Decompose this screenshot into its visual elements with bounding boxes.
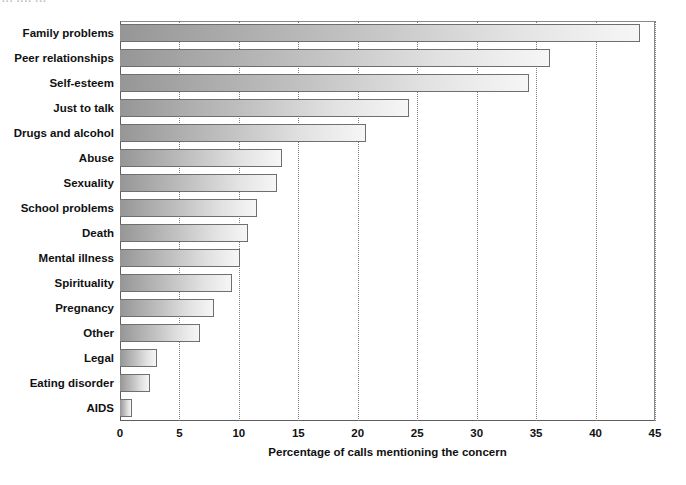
bar-just-to-talk [120,99,409,117]
bar-peer-relationships [120,49,550,67]
bar-chart-figure: Family problemsPeer relationshipsSelf-es… [0,0,686,485]
x-tick-label-40: 40 [589,427,602,439]
category-label-legal: Legal [0,346,114,371]
x-tick-label-15: 15 [292,427,305,439]
bar-drugs-and-alcohol [120,124,366,142]
bar-row [120,121,655,146]
category-label-death: Death [0,221,114,246]
value-axis-tick-labels: 051015202530354045 [0,427,686,443]
x-tick-label-25: 25 [411,427,424,439]
category-label-self-esteem: Self-esteem [0,71,114,96]
bar-row [120,96,655,121]
bar-row [120,346,655,371]
category-label-drugs-and-alcohol: Drugs and alcohol [0,121,114,146]
bar-aids [120,399,132,417]
bar-row [120,21,655,46]
bar-death [120,224,248,242]
bar-row [120,296,655,321]
bar-row [120,171,655,196]
bar-mental-illness [120,249,240,267]
category-label-aids: AIDS [0,396,114,421]
x-tick-label-5: 5 [176,427,182,439]
bar-eating-disorder [120,374,150,392]
x-tick-label-30: 30 [470,427,483,439]
category-label-peer-relationships: Peer relationships [0,46,114,71]
x-tick-label-0: 0 [117,427,123,439]
category-label-spirituality: Spirituality [0,271,114,296]
x-axis-title: Percentage of calls mentioning the conce… [120,446,655,458]
category-label-school-problems: School problems [0,196,114,221]
bar-row [120,321,655,346]
category-label-family-problems: Family problems [0,21,114,46]
x-tick-label-20: 20 [351,427,364,439]
category-axis-labels: Family problemsPeer relationshipsSelf-es… [0,21,114,421]
bar-legal [120,349,157,367]
category-label-just-to-talk: Just to talk [0,96,114,121]
x-tick-label-45: 45 [649,427,662,439]
category-label-other: Other [0,321,114,346]
category-label-mental-illness: Mental illness [0,246,114,271]
bar-row [120,196,655,221]
bar-row [120,396,655,421]
bar-sexuality [120,174,277,192]
bar-row [120,221,655,246]
bar-row [120,46,655,71]
bar-row [120,71,655,96]
category-label-pregnancy: Pregnancy [0,296,114,321]
gridline-45 [655,21,656,421]
bar-school-problems [120,199,257,217]
bar-row [120,371,655,396]
bar-row [120,146,655,171]
bar-spirituality [120,274,232,292]
bar-abuse [120,149,282,167]
bar-other [120,324,200,342]
category-label-abuse: Abuse [0,146,114,171]
bar-self-esteem [120,74,529,92]
bar-pregnancy [120,299,214,317]
bar-family-problems [120,24,640,42]
category-label-eating-disorder: Eating disorder [0,371,114,396]
x-tick-label-35: 35 [530,427,543,439]
bars-layer [120,21,655,421]
category-label-sexuality: Sexuality [0,171,114,196]
bar-row [120,271,655,296]
x-tick-label-10: 10 [232,427,245,439]
bar-row [120,246,655,271]
